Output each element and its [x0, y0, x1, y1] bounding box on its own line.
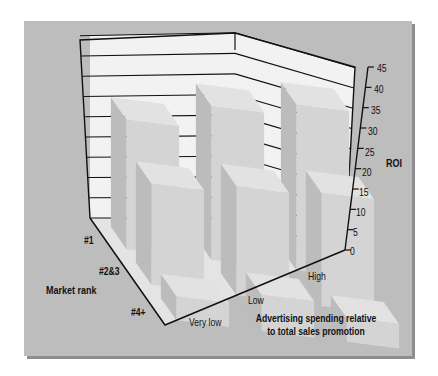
z-tick-label: 25	[365, 146, 375, 158]
z-axis-title: ROI	[386, 157, 402, 169]
z-tick-label: 5	[353, 226, 358, 238]
y-tick-label: #1	[84, 234, 94, 246]
x-tick-label: Low	[248, 294, 264, 306]
z-tick-label: 45	[377, 62, 387, 74]
z-tick-label: 30	[368, 125, 378, 137]
x-axis-title-line2: to total sales promotion	[250, 325, 381, 338]
x-axis-title-line1: Advertising spending relative	[250, 312, 381, 325]
y-tick-label: #2&3	[99, 265, 120, 277]
z-tick-label: 35	[371, 104, 381, 116]
x-axis-title: Advertising spending relative to total s…	[250, 312, 381, 338]
z-tick-label: 20	[362, 166, 372, 178]
z-tick-label: 0	[350, 245, 355, 257]
x-tick-label: High	[308, 270, 326, 282]
z-tick-label: 10	[356, 206, 366, 218]
y-tick-label: #4+	[131, 306, 146, 318]
z-tick-label: 15	[359, 186, 369, 198]
z-tick-label: 40	[374, 83, 384, 95]
y-axis-title: Market rank	[46, 284, 97, 296]
x-tick-label: Very low	[189, 316, 222, 328]
bar-#2&3-Very low	[136, 161, 204, 291]
